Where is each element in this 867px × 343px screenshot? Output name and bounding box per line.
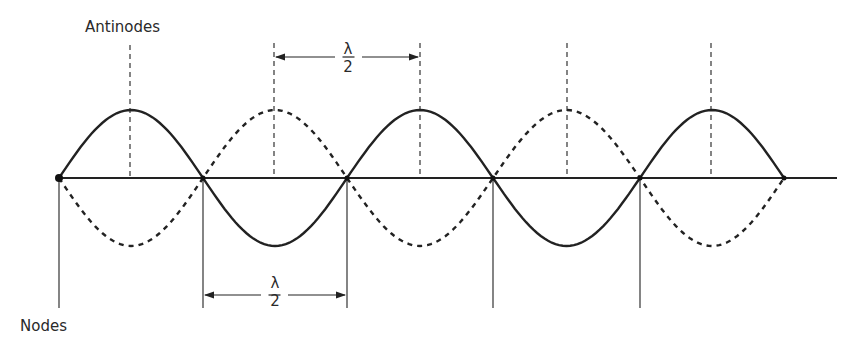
node-dot	[782, 176, 787, 181]
arrowhead-right-icon	[409, 54, 419, 61]
nodes-label: Nodes	[20, 317, 67, 335]
node-dot	[55, 174, 63, 182]
top-lambda-denominator: 2	[338, 58, 358, 76]
arrowhead-left-icon	[275, 54, 285, 61]
node-dot	[201, 176, 206, 181]
top-lambda-numerator: λ	[338, 40, 358, 58]
antinodes-label: Antinodes	[85, 18, 160, 36]
node-dot	[345, 176, 350, 181]
arrowhead-right-icon	[336, 292, 346, 299]
bottom-lambda-over-2: λ 2	[265, 274, 285, 310]
top-lambda-over-2: λ 2	[338, 40, 358, 76]
node-dot	[638, 176, 643, 181]
standing-wave-diagram	[0, 0, 867, 343]
bottom-lambda-denominator: 2	[265, 292, 285, 310]
arrowhead-left-icon	[204, 292, 214, 299]
bottom-lambda-numerator: λ	[265, 274, 285, 292]
node-dot	[491, 176, 496, 181]
